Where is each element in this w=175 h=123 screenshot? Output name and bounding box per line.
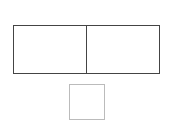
small-square bbox=[69, 84, 105, 120]
two-cell-box bbox=[13, 25, 160, 74]
left-cell bbox=[14, 26, 87, 73]
right-cell bbox=[87, 26, 159, 73]
